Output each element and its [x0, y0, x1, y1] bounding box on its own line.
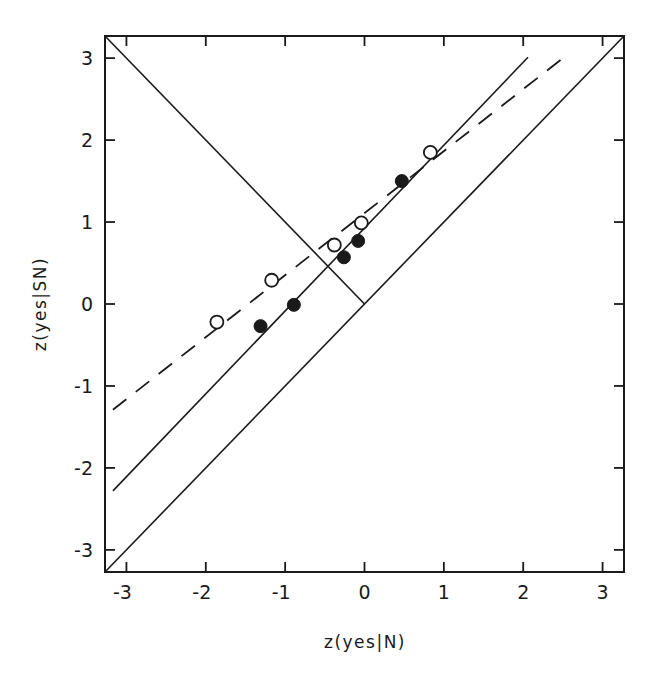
- x-tick-label: 2: [517, 581, 529, 603]
- filled-circle-point: [395, 175, 408, 188]
- x-tick-label: -2: [192, 581, 211, 603]
- y-tick-label: 3: [81, 47, 93, 69]
- negative-diagonal-line: [105, 36, 365, 304]
- x-tick-label: 0: [358, 581, 370, 603]
- filled-circle-point: [254, 320, 267, 333]
- open-circle-point: [355, 216, 368, 229]
- x-tick-label: 3: [597, 581, 609, 603]
- open-circle-point: [424, 146, 437, 159]
- y-tick-label: -1: [74, 375, 93, 397]
- dashed-fit-line: [113, 58, 563, 410]
- y-tick-label: 2: [81, 129, 93, 151]
- data-points: [210, 146, 436, 333]
- x-tick-label: -1: [272, 581, 291, 603]
- reference-and-fit-lines: [105, 36, 624, 572]
- x-tick-label: -3: [113, 581, 132, 603]
- plot-area: -3-2-10123-3-2-10123 z(yes|N) z(yes|SN): [0, 0, 656, 682]
- y-tick-label: 0: [81, 293, 93, 315]
- x-axis-label: z(yes|N): [324, 632, 406, 652]
- y-tick-label: -3: [74, 539, 93, 561]
- filled-circle-point: [352, 234, 365, 247]
- y-tick-label: -2: [74, 457, 93, 479]
- filled-circle-point: [337, 251, 350, 264]
- tick-labels: -3-2-10123-3-2-10123: [74, 47, 609, 603]
- y-tick-label: 1: [81, 211, 93, 233]
- filled-circle-point: [287, 298, 300, 311]
- roc-z-plot: -3-2-10123-3-2-10123 z(yes|N) z(yes|SN): [0, 0, 656, 682]
- open-circle-point: [210, 316, 223, 329]
- y-axis-label: z(yes|SN): [30, 257, 50, 351]
- open-circle-point: [328, 238, 341, 251]
- solid-fit-line: [113, 57, 528, 491]
- x-tick-label: 1: [438, 581, 450, 603]
- open-circle-point: [265, 274, 278, 287]
